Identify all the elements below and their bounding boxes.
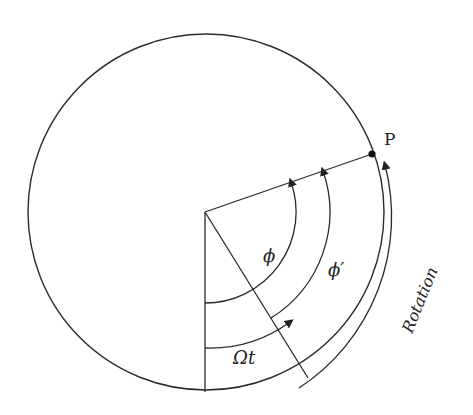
rotation-label: Rotation — [398, 264, 442, 336]
radius-to-p — [205, 154, 372, 212]
phi-prime-arc — [271, 171, 330, 318]
omega-t-label: Ωt — [232, 347, 256, 368]
point-p-label: P — [384, 129, 395, 149]
point-p-dot — [368, 150, 375, 157]
omega-t-arc — [205, 322, 290, 348]
rotation-diagram: P ϕ ϕ′ Ωt Rotation — [0, 0, 473, 415]
phi-label: ϕ — [263, 245, 275, 266]
phi-prime-label: ϕ′ — [328, 259, 344, 280]
